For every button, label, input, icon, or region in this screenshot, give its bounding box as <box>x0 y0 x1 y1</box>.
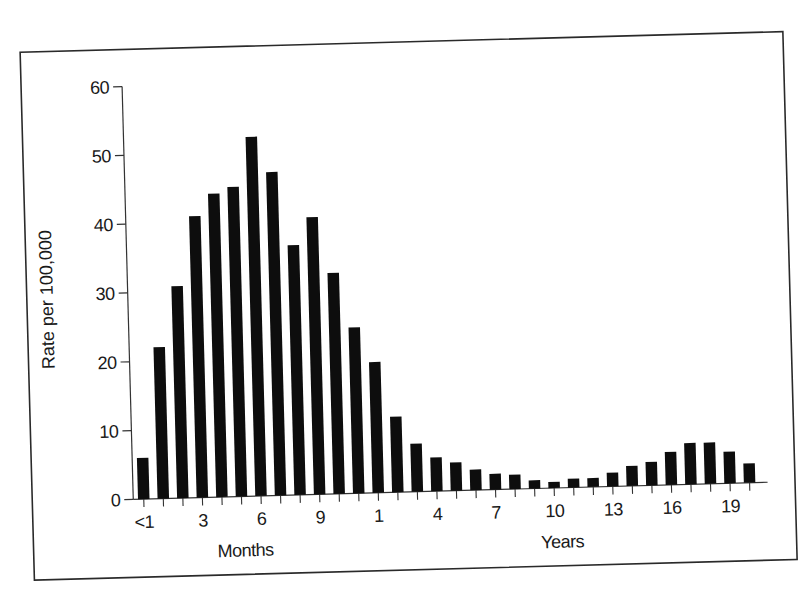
y-tick-label: 20 <box>97 353 117 374</box>
bar <box>665 452 677 485</box>
y-tick-label: 60 <box>90 77 110 98</box>
x-tick-label: <1 <box>134 512 155 533</box>
x-tick-label: 7 <box>491 502 502 522</box>
y-tick-label: 0 <box>111 490 122 510</box>
bar <box>529 480 541 489</box>
bar <box>153 347 169 499</box>
chart-figure: 0102030405060 <136914710131619 Rate per … <box>0 0 808 603</box>
x-axis-label-months: Months <box>217 540 274 562</box>
bar <box>509 474 521 489</box>
bar <box>137 458 150 500</box>
bar <box>489 474 501 490</box>
x-tick-label: 1 <box>374 506 385 526</box>
x-tick-label: 10 <box>545 501 565 522</box>
bar-chart: 0102030405060 <136914710131619 Rate per … <box>0 0 808 603</box>
bar <box>410 443 423 491</box>
bar <box>743 463 755 483</box>
x-tick-label: 16 <box>662 498 682 519</box>
bar <box>587 478 599 487</box>
bars <box>128 123 755 499</box>
bar <box>607 473 619 487</box>
bar <box>684 443 697 485</box>
bar <box>327 273 344 494</box>
bar <box>171 286 188 498</box>
x-tick-label: 19 <box>721 496 741 517</box>
bar <box>208 193 228 497</box>
y-axis-label: Rate per 100,000 <box>35 230 59 370</box>
bar <box>568 478 580 487</box>
y-axis: 0102030405060 <box>90 77 134 511</box>
bar <box>645 462 657 486</box>
x-tick-label: 13 <box>604 499 624 520</box>
y-tick-label: 50 <box>92 146 112 167</box>
y-tick-label: 10 <box>99 421 119 442</box>
bar <box>450 462 462 491</box>
bar <box>189 216 208 498</box>
x-axis-label-years: Years <box>541 531 585 552</box>
bar <box>723 451 735 483</box>
y-tick-label: 30 <box>95 284 115 305</box>
bar <box>306 217 325 495</box>
bar <box>246 137 267 496</box>
x-tick-label: 9 <box>315 507 326 527</box>
bar <box>288 245 306 495</box>
bar <box>227 187 247 497</box>
bar <box>369 362 384 493</box>
bar <box>390 416 404 492</box>
bar <box>266 172 286 496</box>
bar <box>704 442 717 484</box>
y-tick-label: 40 <box>94 215 114 236</box>
bar <box>348 327 364 493</box>
x-tick-label: 6 <box>257 509 268 529</box>
bar <box>430 457 442 491</box>
x-tick-label: 3 <box>198 510 209 530</box>
x-tick-label: 4 <box>433 504 444 524</box>
bar <box>548 482 560 489</box>
bar <box>626 466 638 486</box>
bar <box>470 469 482 490</box>
